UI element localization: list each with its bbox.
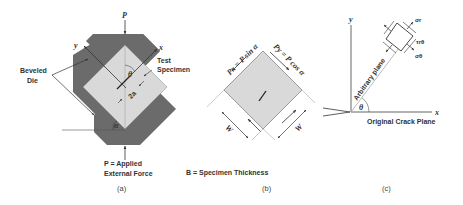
- die-label-line2: Die: [27, 77, 38, 84]
- arbitrary-plane-label: Arbitrary plane: [352, 57, 387, 102]
- axis-x-label: x: [158, 43, 163, 52]
- panel-a: P y x Beveled Die Test Specimen θ 2a α P…: [20, 11, 190, 193]
- width-right-label: W: [293, 122, 305, 134]
- original-crack-wedge: [323, 108, 350, 116]
- original-crack-plane-label: Original Crack Plane: [367, 118, 436, 126]
- width-extension-4: [302, 90, 315, 103]
- caption-b: (b): [262, 184, 272, 193]
- axis-x-label-c: x: [434, 108, 439, 117]
- force-top-label: P: [122, 11, 127, 20]
- width-extension-2: [252, 129, 263, 140]
- die-label-line1: Beveled: [20, 67, 47, 74]
- figure-canvas: P y x Beveled Die Test Specimen θ 2a α P…: [0, 0, 463, 205]
- specimen-label-line1: Test: [157, 57, 172, 64]
- force-definition-line2: External Force: [104, 170, 153, 177]
- width-extension-3: [263, 129, 275, 140]
- caption-a: (a): [117, 184, 127, 193]
- sigma-theta-arrow: [407, 44, 414, 50]
- tau-label: τrθ: [416, 39, 424, 45]
- shear-arrow-bottom-right: [282, 110, 296, 123]
- panel-c: y x Arbitrary plane θ Original Crack Pla…: [323, 15, 439, 193]
- axis-y-label: y: [73, 41, 78, 50]
- alpha-label: α: [114, 121, 119, 130]
- caption-c: (c): [382, 184, 391, 193]
- sigma-theta-label: σθ: [415, 53, 422, 59]
- width-left-label: W: [223, 123, 235, 135]
- thickness-definition: B = Specimen Thickness: [186, 169, 268, 177]
- panel-b: Px = P sin α Py = P cos α W W B = Specim…: [186, 42, 315, 193]
- force-definition-line1: P = Applied: [104, 160, 142, 168]
- axis-y-label-c: y: [348, 15, 353, 24]
- specimen-label-line2: Specimen: [157, 66, 190, 74]
- sigma-r-label: σr: [415, 17, 422, 23]
- width-dimension-left: [222, 112, 248, 138]
- theta-label-c: θ: [359, 103, 364, 112]
- width-extension-1: [207, 90, 224, 107]
